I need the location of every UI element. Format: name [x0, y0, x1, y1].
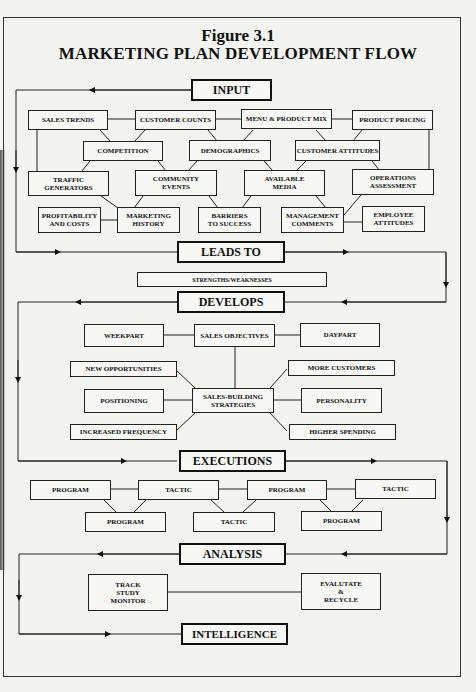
factor-label: SALES TRENDS: [42, 116, 94, 124]
document-page: Figure 3.1 MARKETING PLAN DEVELOPMENT FL…: [0, 0, 476, 692]
stage-leads-to: LEADS TO: [177, 241, 285, 263]
develop-label: WEEKPART: [104, 332, 144, 340]
execution-program: PROGRAM: [85, 512, 166, 532]
develop-label: NEW OPPORTUNITIES: [85, 365, 161, 373]
execution-tactic: TACTIC: [138, 480, 219, 500]
factor-product-pricing: PRODUCT PRICING: [352, 110, 433, 130]
factor-marketing-history: MARKETING HISTORY: [117, 207, 180, 233]
analysis-label: EVALUTATE & RECYCLE: [320, 580, 362, 604]
develop-label: DAYPART: [324, 331, 357, 339]
factor-label: COMPETITION: [97, 147, 148, 155]
factor-demographics: DEMOGRAPHICS: [189, 140, 271, 161]
stage-executions-label: EXECUTIONS: [193, 457, 272, 465]
execution-label: TACTIC: [221, 518, 248, 526]
factor-employee-attitudes: EMPLOYEE ATTITUDES: [362, 206, 425, 232]
execution-label: TACTIC: [382, 485, 409, 493]
stage-input: INPUT: [191, 79, 272, 101]
factor-label: CUSTOMER ATTITUDES: [297, 147, 379, 155]
develop-label: MORE CUSTOMERS: [308, 364, 376, 372]
develop-label: POSITIONING: [100, 397, 147, 405]
develop-new-opportunities: NEW OPPORTUNITIES: [70, 361, 177, 377]
factor-profitability-costs: PROFITABILITY AND COSTS: [38, 207, 101, 233]
develop-label: SALES-BUILDING STRATEGIES: [203, 393, 263, 409]
develop-weekpart: WEEKPART: [84, 324, 164, 347]
execution-label: PROGRAM: [323, 517, 360, 525]
factor-available-media: AVAILABLE MEDIA: [244, 170, 325, 196]
stage-leads-to-label: LEADS TO: [201, 248, 261, 256]
develop-personality: PERSONALITY: [301, 388, 382, 413]
analysis-track-study-monitor: TRACK STUDY MONITOR: [88, 574, 168, 611]
factor-label: PROFITABILITY AND COSTS: [42, 212, 98, 228]
develop-higher-spending: HIGHER SPENDING: [289, 424, 396, 440]
execution-label: TACTIC: [165, 486, 192, 494]
factor-label: EMPLOYEE ATTITUDES: [373, 211, 413, 227]
stage-intelligence: INTELLIGENCE: [181, 623, 288, 645]
factor-barriers-to-success: BARRIERS TO SUCCESS: [198, 207, 261, 233]
stage-input-label: INPUT: [213, 86, 250, 94]
factor-label: MARKETING HISTORY: [126, 212, 171, 228]
stage-develops-label: DEVELOPS: [199, 298, 264, 306]
execution-label: PROGRAM: [269, 486, 306, 494]
factor-community-events: COMMUNITY EVENTS: [135, 170, 217, 196]
factor-label: MANAGEMENT COMMENTS: [286, 212, 339, 228]
factor-label: COMMUNITY EVENTS: [153, 175, 199, 191]
factor-sales-trends: SALES TRENDS: [28, 110, 108, 130]
stage-executions: EXECUTIONS: [179, 450, 286, 472]
develop-label: HIGHER SPENDING: [309, 428, 376, 436]
execution-label: PROGRAM: [52, 486, 89, 494]
factor-label: AVAILABLE MEDIA: [265, 175, 305, 191]
develop-label: SALES OBJECTIVES: [200, 332, 268, 340]
analysis-evaluate-recycle: EVALUTATE & RECYCLE: [301, 573, 381, 610]
develop-daypart: DAYPART: [300, 323, 380, 347]
develop-sales-building-strategies: SALES-BUILDING STRATEGIES: [192, 388, 274, 413]
factor-competition: COMPETITION: [83, 141, 163, 161]
develop-sales-objectives: SALES OBJECTIVES: [194, 324, 275, 347]
execution-tactic: TACTIC: [355, 479, 436, 499]
develop-increased-frequency: INCREASED FREQUENCY: [70, 424, 177, 440]
strengths-weaknesses: STRENGTHS/WEAKNESSES: [137, 272, 327, 287]
factor-traffic-generators: TRAFFIC GENERATORS: [28, 171, 109, 196]
factor-label: PRODUCT PRICING: [359, 116, 426, 124]
develop-label: INCREASED FREQUENCY: [80, 428, 167, 436]
factor-label: DEMOGRAPHICS: [201, 147, 260, 155]
execution-program: PROGRAM: [301, 511, 382, 531]
stage-intelligence-label: INTELLIGENCE: [192, 630, 277, 638]
factor-label: MENU & PRODUCT MIX: [246, 115, 327, 123]
analysis-label: TRACK STUDY MONITOR: [111, 581, 146, 605]
factor-label: TRAFFIC GENERATORS: [44, 176, 92, 192]
factor-management-comments: MANAGEMENT COMMENTS: [281, 207, 344, 233]
factor-menu-product-mix: MENU & PRODUCT MIX: [241, 109, 332, 129]
stage-analysis: ANALYSIS: [179, 543, 286, 565]
execution-label: PROGRAM: [107, 518, 144, 526]
factor-operations-assessment: OPERATIONS ASSESSMENT: [352, 169, 434, 195]
execution-program: PROGRAM: [247, 480, 327, 500]
factor-customer-counts: CUSTOMER COUNTS: [135, 110, 216, 130]
stage-analysis-label: ANALYSIS: [203, 550, 263, 558]
factor-label: BARRIERS TO SUCCESS: [208, 212, 251, 228]
develop-more-customers: MORE CUSTOMERS: [288, 360, 395, 376]
execution-program: PROGRAM: [30, 480, 111, 500]
stage-develops: DEVELOPS: [177, 291, 285, 313]
develop-positioning: POSITIONING: [84, 389, 164, 413]
factor-label: CUSTOMER COUNTS: [140, 116, 211, 124]
factor-customer-attitudes: CUSTOMER ATTITUDES: [295, 140, 380, 161]
execution-tactic: TACTIC: [193, 512, 275, 532]
develop-label: PERSONALITY: [316, 397, 367, 405]
factor-label: OPERATIONS ASSESSMENT: [370, 174, 416, 190]
strengths-weaknesses-label: STRENGTHS/WEAKNESSES: [192, 276, 272, 284]
